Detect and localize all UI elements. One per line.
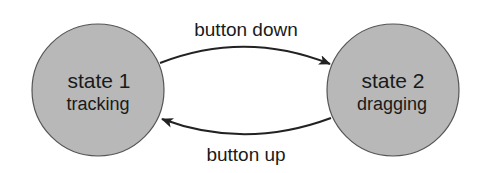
transition-button-up: button up xyxy=(162,118,331,165)
state-diagram: state 1 tracking state 2 dragging button… xyxy=(0,0,482,173)
state-1-subtitle: tracking xyxy=(66,94,129,114)
state-2-subtitle: dragging xyxy=(357,94,427,114)
arrow-right-icon xyxy=(160,47,330,64)
arrow-left-icon xyxy=(162,118,331,134)
transition-label-button-down: button down xyxy=(194,19,298,40)
transition-label-button-up: button up xyxy=(206,144,285,165)
state-2-node: state 2 dragging xyxy=(327,24,459,156)
state-1-title: state 1 xyxy=(67,69,130,92)
transition-button-down: button down xyxy=(160,19,330,64)
state-2-title: state 2 xyxy=(361,69,424,92)
state-1-node: state 1 tracking xyxy=(32,24,164,156)
